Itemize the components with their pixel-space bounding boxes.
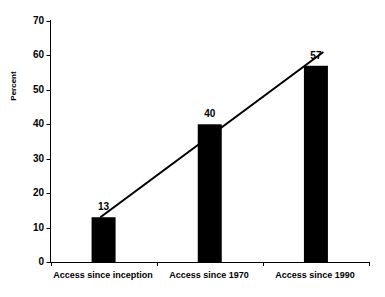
category-label-1: Access since inception	[50, 268, 156, 284]
bar-1	[92, 217, 116, 262]
y-axis-ticks	[47, 22, 51, 263]
x-axis-category-labels: Access since inceptionAccess since 1970A…	[50, 268, 368, 284]
plot-area	[0, 0, 385, 297]
category-label-3: Access since 1990	[262, 268, 368, 284]
value-label-2: 40	[190, 107, 230, 121]
bar-chart: Percent 010203040506070 134057 Access si…	[0, 0, 385, 297]
value-label-3: 57	[296, 49, 336, 63]
value-label-1: 13	[84, 200, 124, 214]
category-label-2: Access since 1970	[156, 268, 262, 284]
bar-3	[304, 66, 328, 262]
bar-group	[92, 66, 328, 262]
bar-2	[198, 124, 222, 262]
